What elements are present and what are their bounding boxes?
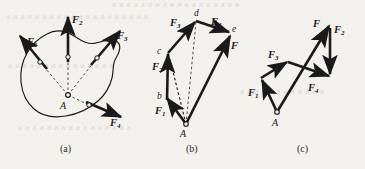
point-a-marker [66,93,71,98]
mechanics-figure: F1 F2 F3 F4 A A b c d e F1 F2 [0,0,365,169]
panel-b-label-vertex-d: d [194,8,199,18]
panel-a-caption: (a) [60,143,71,154]
polygon-c-edge-f3 [261,62,287,78]
panel-c-label-resultant-f: F [312,18,320,29]
panel-c-label-point-a: A [271,117,279,128]
panel-b-label-f1: F1 [154,105,166,118]
label-f2: F2 [71,14,83,27]
polygon-c-edge-f1 [262,80,277,112]
panel-c-caption: (c) [297,143,308,154]
panel-c-label-f3: F3 [267,49,279,62]
polygon-b-resultant-f [186,36,230,124]
panel-b-label-f3: F3 [169,17,181,30]
panel-b-label-vertex-c: c [157,46,162,56]
panel-c-label-f1: F1 [247,87,259,100]
application-point-p4 [87,103,91,107]
panel-c-label-f4: F4 [307,82,319,95]
panel-c-label-f2: F2 [333,24,345,37]
panel-b-label-vertex-a: A [179,128,187,139]
application-point-p1 [38,60,42,64]
label-f4: F4 [109,117,121,130]
panel-b: A b c d e F1 F2 F3 F4 F [151,8,238,139]
action-line-to-p4 [68,95,89,105]
panel-b-label-f2: F2 [151,61,163,74]
panel-c: A F1 F3 F2 F4 F [247,18,345,128]
panel-b-label-vertex-b: b [157,91,162,101]
polygon-b-edge-f1 [167,98,186,124]
panel-b-caption: (b) [186,143,198,154]
panel-c-point-a-marker [275,110,280,115]
panel-b-point-a-marker [184,122,189,127]
polygon-b-edge-f2 [167,54,168,100]
label-point-a: A [59,100,67,111]
application-point-p3 [95,56,99,60]
label-f3: F3 [116,30,128,43]
figure-canvas: F1 F2 F3 F4 A A b c d e F1 F2 [0,0,365,169]
polygon-c-edge-f4 [288,62,329,76]
panel-a: F1 F2 F3 F4 A [20,14,128,130]
polygon-c-resultant-f [277,26,329,112]
panel-b-label-vertex-e: e [232,24,236,34]
panel-b-label-resultant-f: F [230,40,238,51]
application-point-p2 [66,55,70,59]
